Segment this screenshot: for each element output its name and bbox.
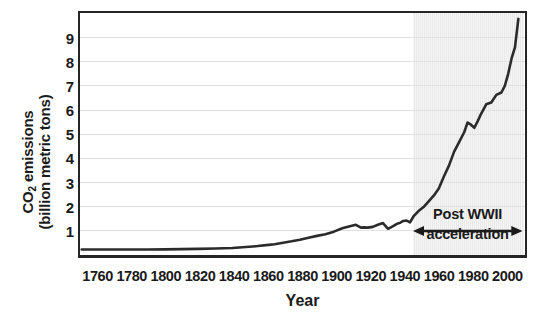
y-axis-tick-label: 7 [52,77,74,94]
x-axis-title: Year [78,292,527,310]
y-axis-title-line1: CO2 emissions [20,110,37,213]
y-axis-tick-label: 3 [52,174,74,191]
y-axis-tick-label: 2 [52,198,74,215]
y-axis-tick-label: 9 [52,29,74,46]
y-axis-tick-label: 4 [52,150,74,167]
y-axis-title-subscript: 2 [27,186,38,191]
x-axis-tick-labels: 1760178018001820184018601880190019201940… [0,268,544,288]
co2-emissions-chart: CO2 emissions (billion metric tons) 1234… [0,0,544,322]
y-axis-tick-label: 6 [52,102,74,119]
y-axis-tick-label: 1 [52,222,74,239]
y-axis-tick-label: 5 [52,126,74,143]
co2-emissions-line [80,13,525,255]
y-axis-tick-label: 8 [52,53,74,70]
plot-area: Post WWII acceleration [78,11,527,258]
x-axis-tick-label: 2000 [484,268,530,284]
